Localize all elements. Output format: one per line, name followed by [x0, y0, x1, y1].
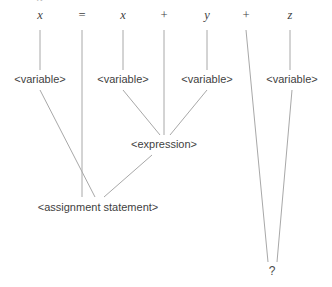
token-tok-eq: = — [78, 9, 86, 22]
tree-edge — [123, 90, 160, 135]
cropped-token-mark: = — [78, 0, 86, 4]
tree-edge — [277, 90, 292, 262]
token-tok-z: z — [288, 9, 293, 22]
token-tok-x2: x — [120, 9, 126, 22]
token-tok-plus1: + — [160, 9, 168, 22]
nonterminal-assignment: <assignment statement> — [38, 202, 158, 213]
nonterminal-expression: <expression> — [131, 139, 197, 150]
token-tok-y: y — [204, 9, 210, 22]
cropped-token-mark: x — [37, 0, 43, 4]
nonterminal-var-2: <variable> — [97, 74, 148, 85]
unknown-node: ? — [269, 265, 276, 277]
nonterminal-var-3: <variable> — [181, 74, 232, 85]
nonterminal-var-4: <variable> — [266, 74, 317, 85]
tree-edge — [246, 30, 268, 262]
token-tok-plus2: + — [242, 9, 250, 22]
tree-edge — [40, 90, 95, 197]
nonterminal-var-1: <variable> — [14, 74, 65, 85]
tree-edge — [104, 155, 152, 197]
token-tok-x1: x — [37, 9, 43, 22]
tree-edge — [170, 90, 207, 135]
parse-tree-diagram: x=x+y+z<variable><variable><variable><va… — [0, 0, 332, 287]
